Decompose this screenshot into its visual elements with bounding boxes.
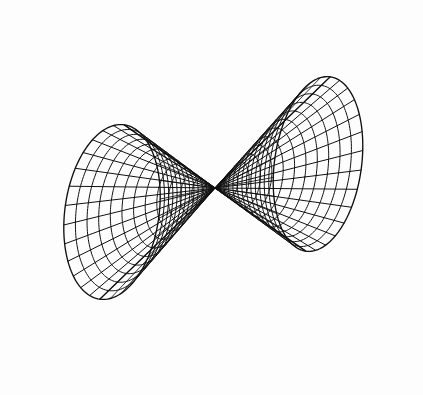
double-cone-wireframe-plot: Double cone (two nappes) wireframe mesh (0, 0, 423, 395)
figure-container: Double cone (two nappes) wireframe mesh (0, 0, 423, 395)
plot-background (0, 0, 423, 395)
